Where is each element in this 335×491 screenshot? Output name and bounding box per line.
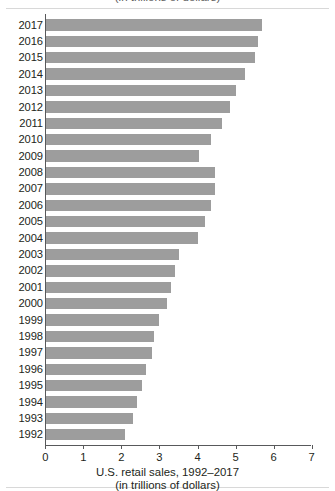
bar-row: 2003: [0, 246, 335, 262]
bar-track: [45, 214, 335, 230]
bar: [45, 101, 230, 112]
bar-track: [45, 50, 335, 66]
bar-track: [45, 115, 335, 131]
bar-row: 2007: [0, 181, 335, 197]
bar-track: [45, 328, 335, 344]
bar: [45, 413, 133, 424]
bar-row: 1995: [0, 378, 335, 394]
plot-area: 2017201620152014201320122011201020092008…: [0, 14, 335, 444]
bar-row-label: 1999: [0, 315, 43, 326]
x-axis-tick: [159, 445, 160, 449]
bar-track: [45, 361, 335, 377]
bar-row: 1992: [0, 427, 335, 443]
bar-row-label: 2002: [0, 265, 43, 276]
bar: [45, 249, 178, 260]
bar: [45, 167, 214, 178]
bar-track: [45, 279, 335, 295]
bar-row: 2017: [0, 17, 335, 33]
bar-track: [45, 345, 335, 361]
x-axis-tick-label: 4: [186, 451, 210, 463]
bar-row-label: 2006: [0, 200, 43, 211]
bar: [45, 52, 254, 63]
bar: [45, 298, 167, 309]
x-axis-tick: [83, 445, 84, 449]
bar-track: [45, 165, 335, 181]
bar-row: 1993: [0, 410, 335, 426]
bar-track: [45, 83, 335, 99]
bar-row: 2002: [0, 263, 335, 279]
bar-track: [45, 230, 335, 246]
chart-caption: U.S. retail sales, 1992–2017 (in trillio…: [0, 466, 335, 491]
bar-row: 2001: [0, 279, 335, 295]
bar-track: [45, 246, 335, 262]
bar: [45, 118, 222, 129]
x-axis-tick: [274, 445, 275, 449]
bar-row-label: 2005: [0, 216, 43, 227]
bar-row-label: 2017: [0, 20, 43, 31]
bar-row: 2015: [0, 50, 335, 66]
bar: [45, 134, 211, 145]
bar: [45, 150, 199, 161]
bar-row: 1996: [0, 361, 335, 377]
bar-row-label: 1992: [0, 429, 43, 440]
bar-row-label: 2000: [0, 298, 43, 309]
bar: [45, 282, 171, 293]
bar-row-label: 2004: [0, 233, 43, 244]
caption-line-2: (in trillions of dollars): [0, 479, 335, 491]
y-axis-line: [45, 14, 46, 446]
bar: [45, 183, 214, 194]
bar: [45, 68, 245, 79]
bar-row-label: 1995: [0, 380, 43, 391]
bar: [45, 314, 159, 325]
bar: [45, 364, 146, 375]
bar-row: 2013: [0, 83, 335, 99]
bar-track: [45, 132, 335, 148]
x-axis-tick: [312, 445, 313, 449]
bar: [45, 265, 174, 276]
bar-row: 1999: [0, 312, 335, 328]
bar-row-label: 2014: [0, 69, 43, 80]
bar-track: [45, 17, 335, 33]
bar-row: 2014: [0, 66, 335, 82]
frame-rule-top: [6, 8, 329, 9]
bar-track: [45, 410, 335, 426]
cropped-header-text: (in trillions of dollars): [0, 0, 335, 7]
bar-row-label: 2007: [0, 183, 43, 194]
bar-row-label: 2008: [0, 167, 43, 178]
bar-row-label: 2016: [0, 36, 43, 47]
bar-track: [45, 66, 335, 82]
bar-row-label: 1994: [0, 397, 43, 408]
cropped-header-label: (in trillions of dollars): [0, 0, 335, 3]
bar-row-label: 2009: [0, 151, 43, 162]
bar-track: [45, 427, 335, 443]
bar-track: [45, 394, 335, 410]
bar-row: 2009: [0, 148, 335, 164]
bar: [45, 36, 258, 47]
bar-row-label: 2003: [0, 249, 43, 260]
bar-row-label: 2013: [0, 85, 43, 96]
bar: [45, 380, 142, 391]
bar-rows: 2017201620152014201320122011201020092008…: [0, 17, 335, 443]
bar-row: 2004: [0, 230, 335, 246]
x-axis-tick: [236, 445, 237, 449]
bar-row-label: 1993: [0, 413, 43, 424]
bar-row: 2012: [0, 99, 335, 115]
bar-track: [45, 148, 335, 164]
x-axis-line: [45, 445, 311, 446]
x-axis-tick-label: 3: [147, 451, 171, 463]
bar: [45, 19, 262, 30]
x-axis-tick: [45, 445, 46, 449]
x-axis-tick: [198, 445, 199, 449]
bar-track: [45, 33, 335, 49]
bar-track: [45, 99, 335, 115]
bar-row-label: 2015: [0, 52, 43, 63]
x-axis-tick-label: 2: [109, 451, 133, 463]
bar-track: [45, 181, 335, 197]
retail-sales-bar-chart-figure: (in trillions of dollars) 20172016201520…: [0, 0, 335, 491]
bar-row: 1998: [0, 328, 335, 344]
bar-row: 1997: [0, 345, 335, 361]
bar: [45, 85, 235, 96]
bar-row-label: 1997: [0, 347, 43, 358]
bar: [45, 347, 152, 358]
bar: [45, 331, 153, 342]
